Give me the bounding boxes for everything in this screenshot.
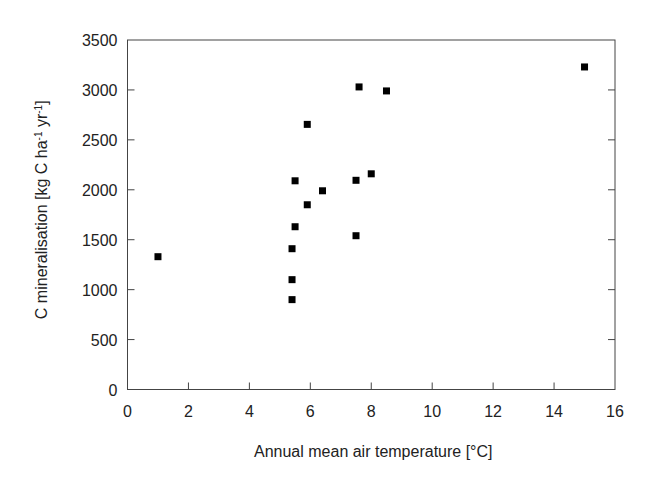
x-tick-label: 12 (484, 403, 502, 420)
y-tick-label: 2500 (82, 132, 118, 149)
x-tick-label: 0 (123, 403, 132, 420)
data-point (581, 63, 588, 70)
data-point (304, 121, 311, 128)
data-points (154, 63, 588, 303)
data-point (353, 177, 360, 184)
y-axis-title: C mineralisation [kg C ha-1 yr-1] (33, 100, 51, 319)
x-tick-label: 8 (367, 403, 376, 420)
x-tick-label: 16 (606, 403, 624, 420)
data-point (289, 296, 296, 303)
data-point (289, 276, 296, 283)
data-point (292, 223, 299, 230)
data-point (383, 87, 390, 94)
data-point (289, 245, 296, 252)
y-tick-label: 3500 (82, 32, 118, 49)
data-point (304, 201, 311, 208)
scatter-chart: 0246810121416 05001000150020002500300035… (0, 0, 653, 485)
y-tick-label: 1500 (82, 232, 118, 249)
data-point (356, 83, 363, 90)
y-tick-label: 500 (91, 332, 118, 349)
y-tick-label: 3000 (82, 82, 118, 99)
y-axis-title-mid: yr (33, 113, 50, 131)
data-point (368, 170, 375, 177)
x-tick-label: 10 (423, 403, 441, 420)
x-tick-label: 14 (545, 403, 563, 420)
y-tick-label: 0 (109, 382, 118, 399)
x-axis-title: Annual mean air temperature [°C] (254, 443, 493, 460)
plot-frame (128, 40, 616, 390)
x-tick-label: 2 (184, 403, 193, 420)
data-point (353, 232, 360, 239)
x-axis: 0246810121416 (123, 383, 624, 420)
y-tick-label: 1000 (82, 282, 118, 299)
x-tick-label: 6 (306, 403, 315, 420)
x-tick-label: 4 (245, 403, 254, 420)
y-axis-title-main: C mineralisation [kg C ha (33, 140, 50, 319)
y-tick-label: 2000 (82, 182, 118, 199)
data-point (319, 187, 326, 194)
data-point (154, 253, 161, 260)
y-axis-title-end: ] (33, 100, 50, 104)
data-point (292, 177, 299, 184)
y-axis: 0500100015002000250030003500 (82, 32, 615, 399)
